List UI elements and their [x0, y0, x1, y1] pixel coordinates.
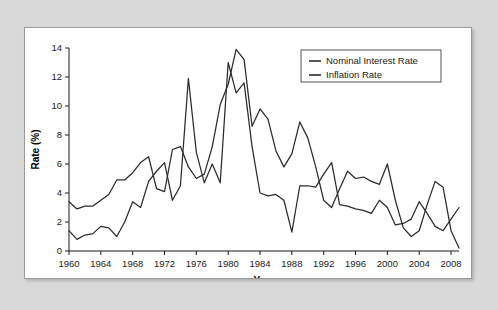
x-tick-label: 1960	[58, 258, 79, 269]
y-tick-label: 2	[57, 216, 62, 227]
screenshot-root: 0246810121419601964196819721976198019841…	[0, 0, 498, 310]
x-tick-label: 1996	[345, 258, 366, 269]
x-tick-label: 2004	[409, 258, 430, 269]
rate-line-chart: 0246810121419601964196819721976198019841…	[25, 28, 471, 278]
x-tick-label: 1988	[281, 258, 302, 269]
y-tick-label: 0	[57, 245, 62, 256]
chart-panel: 0246810121419601964196819721976198019841…	[24, 27, 472, 279]
x-tick-label: 1992	[313, 258, 334, 269]
x-tick-label: 1976	[186, 258, 207, 269]
x-tick-label: 1984	[249, 258, 270, 269]
y-tick-label: 6	[57, 158, 62, 169]
x-tick-label: 2000	[377, 258, 398, 269]
y-tick-label: 10	[51, 100, 62, 111]
y-tick-label: 12	[51, 71, 62, 82]
y-tick-label: 14	[51, 42, 62, 53]
x-tick-label: 1972	[154, 258, 175, 269]
x-axis-title: Year	[253, 275, 274, 278]
legend-label-2: Inflation Rate	[326, 69, 382, 80]
x-tick-label: 1964	[90, 258, 111, 269]
x-tick-label: 1980	[218, 258, 239, 269]
y-tick-label: 4	[57, 187, 62, 198]
legend-label-1: Nominal Interest Rate	[326, 55, 418, 66]
series-line-2	[69, 63, 459, 240]
y-tick-label: 8	[57, 129, 62, 140]
x-tick-label: 2008	[440, 258, 461, 269]
y-axis-title: Rate (%)	[30, 129, 41, 169]
x-tick-label: 1968	[122, 258, 143, 269]
